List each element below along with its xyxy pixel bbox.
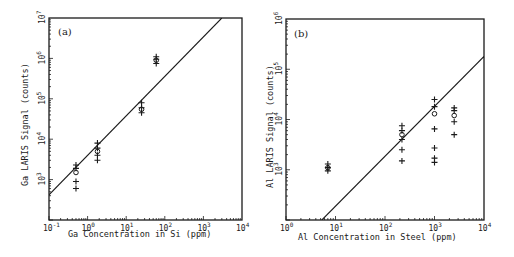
data-point-plus — [73, 186, 79, 192]
data-layer — [49, 18, 222, 195]
x-axis-label-a: Ga Concentration in Si (ppm) — [68, 229, 211, 239]
data-point-plus — [432, 159, 438, 165]
plot-frame — [49, 18, 242, 220]
y-tick-label: 104 — [35, 132, 47, 146]
y-tick-label: 105 — [35, 91, 47, 105]
fit-line — [49, 18, 222, 195]
x-tick-label: 104 — [236, 221, 250, 233]
data-point-plus — [73, 178, 79, 184]
x-tick-label: 10-1 — [43, 221, 60, 233]
panel-label-a: (a) — [58, 26, 72, 37]
x-tick-label: 100 — [280, 221, 294, 233]
data-point-plus — [432, 145, 438, 151]
data-point-mean — [452, 113, 457, 118]
y-tick-label: 103 — [35, 172, 47, 186]
data-point-plus — [432, 97, 438, 103]
fit-line — [322, 56, 484, 220]
data-point-plus — [399, 158, 405, 164]
chart-panel-a: 10-1100101102103104103104105106107 (a) G… — [0, 0, 257, 257]
plot-area-a: 10-1100101102103104103104105106107 — [0, 0, 257, 257]
data-point-plus — [399, 147, 405, 153]
data-point-plus — [94, 157, 100, 163]
data-point-mean — [432, 111, 437, 116]
data-layer — [322, 56, 484, 220]
x-axis-label-b: Al Concentration in Steel (ppm) — [298, 232, 457, 242]
y-axis-label-a: Ga LARIS Signal (counts) — [20, 63, 30, 186]
chart-panel-b: 100101102103104103104105106 (b) Al Conce… — [257, 0, 514, 257]
y-tick-label: 106 — [35, 51, 47, 65]
y-tick-label: 106 — [272, 11, 284, 25]
y-axis-label-b: Al LARIS Signal (counts) — [265, 65, 275, 188]
data-point-plus — [451, 132, 457, 138]
data-point-plus — [451, 119, 457, 125]
panel-label-b: (b) — [294, 28, 308, 39]
data-point-plus — [432, 126, 438, 132]
y-tick-label: 107 — [35, 10, 47, 24]
x-tick-label: 104 — [478, 221, 492, 233]
